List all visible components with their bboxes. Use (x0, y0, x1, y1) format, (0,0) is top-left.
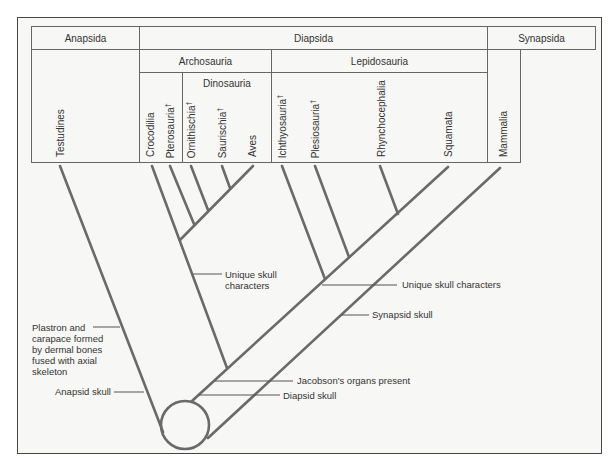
cladogram-tree (0, 0, 615, 472)
annotation-plastron: Plastron and carapace formed by dermal b… (32, 322, 103, 377)
annotation-synapsid-skull: Synapsid skull (372, 309, 433, 320)
annotation-diapsid-skull: Diapsid skull (283, 390, 336, 401)
annotation-archosaur-unique-skull: Unique skull characters (225, 269, 277, 291)
annotation-lepidosaur-unique-skull: Unique skull characters (402, 279, 501, 290)
annotation-anapsid-skull: Anapsid skull (55, 386, 111, 397)
annotation-jacobson: Jacobson's organs present (297, 375, 410, 386)
